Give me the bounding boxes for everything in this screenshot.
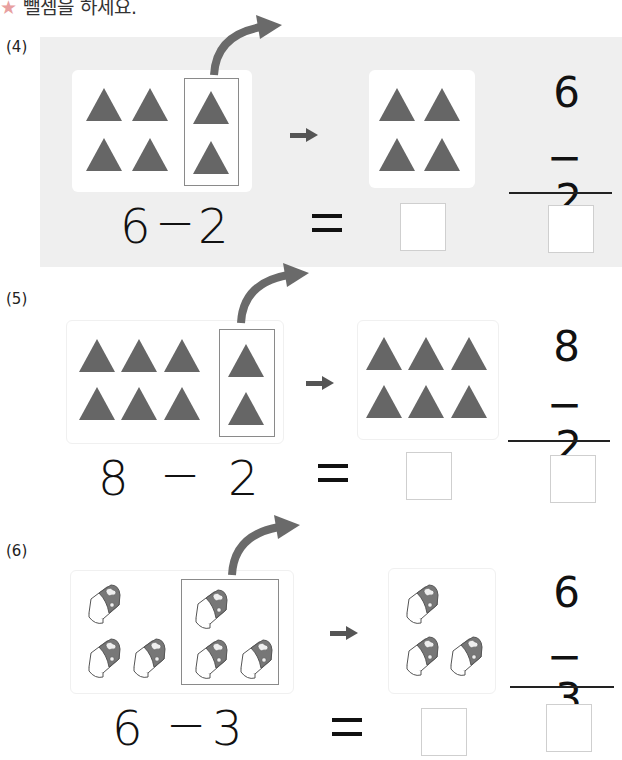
minuend: 6	[120, 202, 151, 250]
eraser-icon	[399, 633, 443, 677]
before-picture-card	[70, 570, 294, 694]
triangle-icon	[408, 385, 444, 418]
eraser-icon	[399, 581, 443, 625]
vertical-sum-line	[508, 440, 610, 442]
star-icon: ★	[0, 0, 17, 18]
triangle-icon	[379, 88, 415, 121]
triangle-icon	[79, 339, 115, 372]
after-picture-card	[369, 70, 475, 188]
vertical-minuend: 8	[540, 326, 580, 368]
eraser-icon	[126, 635, 170, 679]
problem-label: (4)	[6, 38, 27, 56]
answer-box-horizontal[interactable]	[421, 708, 467, 756]
eraser-icon	[188, 586, 232, 630]
subtrahend: 2	[198, 202, 229, 250]
eraser-icon	[233, 636, 277, 680]
triangle-icon	[379, 138, 415, 171]
triangle-icon	[86, 88, 122, 121]
eraser-icon	[81, 581, 125, 625]
eraser-icon	[188, 636, 232, 680]
triangle-icon	[193, 141, 229, 174]
minuend: 6	[112, 704, 143, 752]
minus-sign: −	[166, 700, 206, 748]
triangle-icon	[121, 387, 157, 420]
after-picture-card	[357, 320, 499, 440]
before-picture-card	[72, 70, 252, 192]
triangle-icon	[366, 337, 402, 370]
triangle-icon	[408, 337, 444, 370]
after-picture-card	[388, 568, 496, 694]
problem-label: (5)	[6, 290, 27, 308]
removed-group-box	[184, 78, 239, 186]
triangle-icon	[121, 339, 157, 372]
triangle-icon	[79, 387, 115, 420]
vertical-minuend: 6	[540, 72, 580, 114]
removed-group-box	[181, 579, 279, 685]
triangle-icon	[451, 337, 487, 370]
vertical-sum-line	[510, 686, 614, 688]
take-away-curved-arrow-icon	[233, 260, 313, 326]
triangle-icon	[193, 91, 229, 124]
minuend: 8	[98, 454, 129, 502]
answer-box-vertical[interactable]	[546, 704, 592, 752]
vertical-sum-line	[509, 192, 612, 194]
triangle-icon	[164, 339, 200, 372]
answer-box-vertical[interactable]	[548, 205, 594, 253]
equals-sign	[318, 464, 348, 482]
triangle-icon	[451, 385, 487, 418]
answer-box-horizontal[interactable]	[400, 203, 446, 251]
arrow-right-icon	[306, 376, 334, 390]
answer-box-horizontal[interactable]	[406, 452, 452, 500]
triangle-icon	[424, 88, 460, 121]
triangle-icon	[424, 138, 460, 171]
arrow-right-icon	[330, 626, 358, 640]
before-picture-card	[66, 320, 284, 444]
instruction-text: 뺄셈을 하세요.	[23, 0, 137, 18]
eraser-icon	[81, 635, 125, 679]
triangle-icon	[132, 88, 168, 121]
subtrahend: 2	[228, 454, 259, 502]
triangle-icon	[228, 344, 264, 377]
subtrahend: 3	[212, 704, 243, 752]
take-away-curved-arrow-icon	[206, 12, 286, 78]
instruction-header: ★뺄셈을 하세요.	[0, 0, 137, 19]
equals-sign	[312, 214, 342, 232]
triangle-icon	[132, 138, 168, 171]
triangle-icon	[228, 392, 264, 425]
problem-label: (6)	[6, 542, 27, 560]
triangle-icon	[164, 387, 200, 420]
minus-sign: −	[160, 450, 200, 498]
minus-sign: −	[155, 198, 195, 246]
vertical-minuend: 6	[540, 572, 580, 614]
answer-box-vertical[interactable]	[550, 455, 596, 503]
triangle-icon	[366, 385, 402, 418]
equals-sign	[332, 718, 362, 736]
eraser-icon	[443, 633, 487, 677]
removed-group-box	[219, 329, 275, 437]
take-away-curved-arrow-icon	[224, 512, 304, 578]
triangle-icon	[86, 138, 122, 171]
arrow-right-icon	[290, 128, 318, 142]
